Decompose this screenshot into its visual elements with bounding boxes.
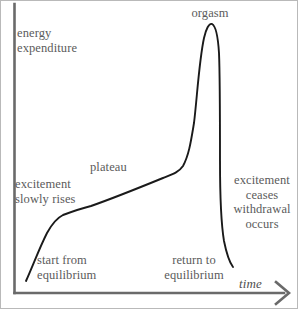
x-axis-label: time [239,277,262,292]
response-curve-line [26,24,233,281]
annotation-orgasm: orgasm [181,6,239,21]
response-cycle-figure: energy expenditure orgasm plateau excite… [0,0,298,309]
annotation-excitement-rises: excitement slowly rises [15,177,76,206]
annotation-excitement-ceases: excitement ceases withdrawal occurs [229,173,295,231]
annotation-start-equilibrium: start from equilibrium [37,253,96,282]
annotation-return-equilibrium: return to equilibrium [153,253,235,282]
annotation-plateau: plateau [90,160,127,175]
y-axis-label: energy expenditure [17,26,77,55]
